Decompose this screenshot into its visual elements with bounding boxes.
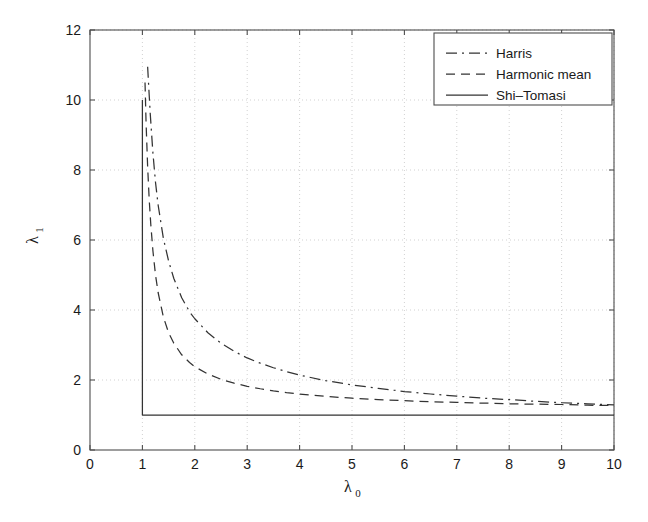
x-tick-label: 4 [296, 456, 304, 472]
y-tick-label: 6 [73, 232, 81, 248]
x-tick-label: 7 [453, 456, 461, 472]
x-tick-label: 9 [558, 456, 566, 472]
y-tick-label: 8 [73, 162, 81, 178]
chart-legend: HarrisHarmonic meanShi–Tomasi [434, 33, 612, 105]
y-tick-label: 2 [73, 372, 81, 388]
chart-canvas: 012345678910024681012 λ 0 λ 1 HarrisHarm… [0, 0, 648, 522]
y-tick-label: 10 [65, 92, 81, 108]
x-tick-label: 0 [86, 456, 94, 472]
x-tick-label: 2 [191, 456, 199, 472]
x-axis-title-subscript: 0 [355, 487, 361, 499]
x-tick-label: 5 [348, 456, 356, 472]
legend-label: Harmonic mean [496, 67, 591, 82]
x-axis-title-symbol: λ [344, 478, 352, 495]
x-tick-label: 8 [505, 456, 513, 472]
legend-label: Shi–Tomasi [496, 88, 566, 103]
y-tick-label: 12 [65, 22, 81, 38]
x-tick-label: 10 [606, 456, 622, 472]
y-tick-label: 0 [73, 442, 81, 458]
x-tick-label: 3 [243, 456, 251, 472]
legend-label: Harris [496, 46, 532, 61]
x-tick-label: 1 [139, 456, 147, 472]
y-tick-label: 4 [73, 302, 81, 318]
x-tick-label: 6 [401, 456, 409, 472]
y-axis-title-symbol: λ [24, 236, 41, 244]
chart-figure: 012345678910024681012 λ 0 λ 1 HarrisHarm… [0, 0, 648, 522]
y-axis-title-subscript: 1 [33, 227, 45, 233]
